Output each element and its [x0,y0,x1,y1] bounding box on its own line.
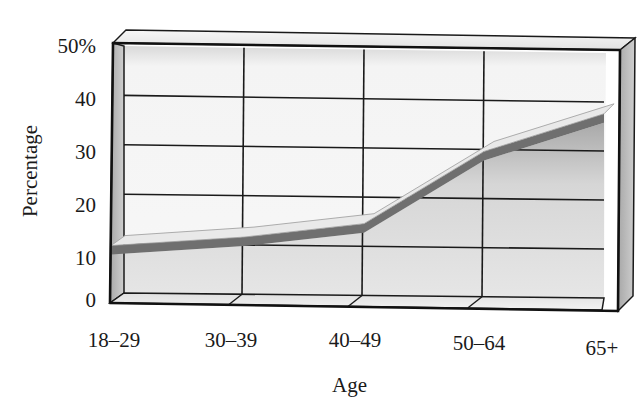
x-axis-title: Age [332,373,367,398]
x-tick-40-49: 40–49 [310,330,400,351]
x-tick-30-39: 30–39 [186,330,276,351]
x-tick-18-29: 18–29 [69,330,159,351]
x-tick-65-plus: 65+ [557,338,644,359]
y-tick-0: 0 [26,290,96,311]
y-tick-10: 10 [26,248,96,269]
y-tick-40: 40 [26,89,96,110]
y-axis-title: Percentage [18,125,43,217]
chart-canvas [0,0,644,419]
y-tick-50: 50% [26,36,96,57]
x-tick-50-64: 50–64 [434,333,524,354]
